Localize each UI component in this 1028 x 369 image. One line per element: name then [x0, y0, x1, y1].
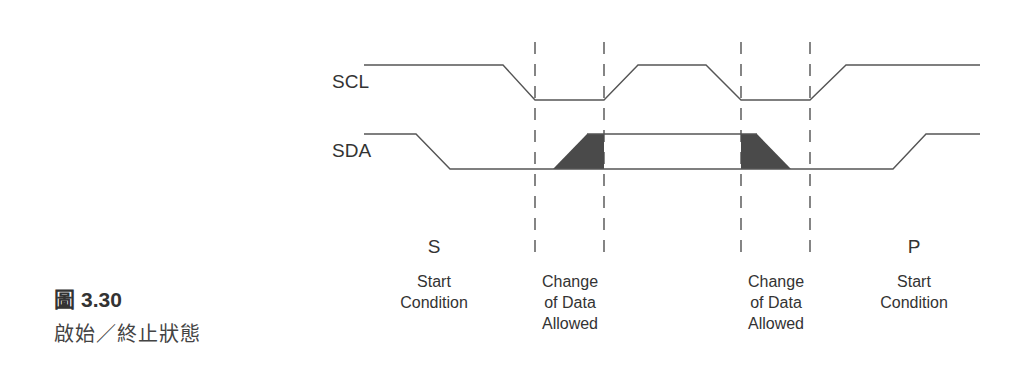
stop-symbol: P — [908, 236, 921, 257]
shaded-data-fall — [741, 134, 791, 169]
shaded-data-rise — [553, 134, 604, 169]
label-line: Condition — [880, 292, 948, 313]
label-line: Allowed — [748, 313, 804, 334]
figure-number: 圖3.30 — [54, 283, 122, 313]
label-line: of Data — [748, 292, 804, 313]
label-line: Start — [400, 271, 468, 292]
i2c-timing-figure: SCL SDA S Start Condition Change of Data… — [0, 0, 1028, 369]
start-symbol: S — [428, 236, 441, 257]
change-data-label-1: Change of Data Allowed — [542, 271, 598, 334]
figure-title: 啟始／終止狀態 — [54, 318, 201, 347]
label-line: Allowed — [542, 313, 598, 334]
scl-label: SCL — [332, 71, 369, 93]
label-line: Start — [880, 271, 948, 292]
stop-condition-label: Start Condition — [880, 271, 948, 313]
sda-label: SDA — [332, 140, 371, 162]
sda-waveform-low — [364, 134, 980, 169]
scl-waveform — [364, 65, 980, 100]
change-data-label-2: Change of Data Allowed — [748, 271, 804, 334]
start-condition-label: Start Condition — [400, 271, 468, 313]
label-line: Change — [542, 271, 598, 292]
timing-diagram — [0, 0, 1028, 369]
label-line: Condition — [400, 292, 468, 313]
figure-prefix: 圖 — [54, 288, 75, 312]
label-line: of Data — [542, 292, 598, 313]
label-line: Change — [748, 271, 804, 292]
figure-number-value: 3.30 — [81, 288, 122, 311]
